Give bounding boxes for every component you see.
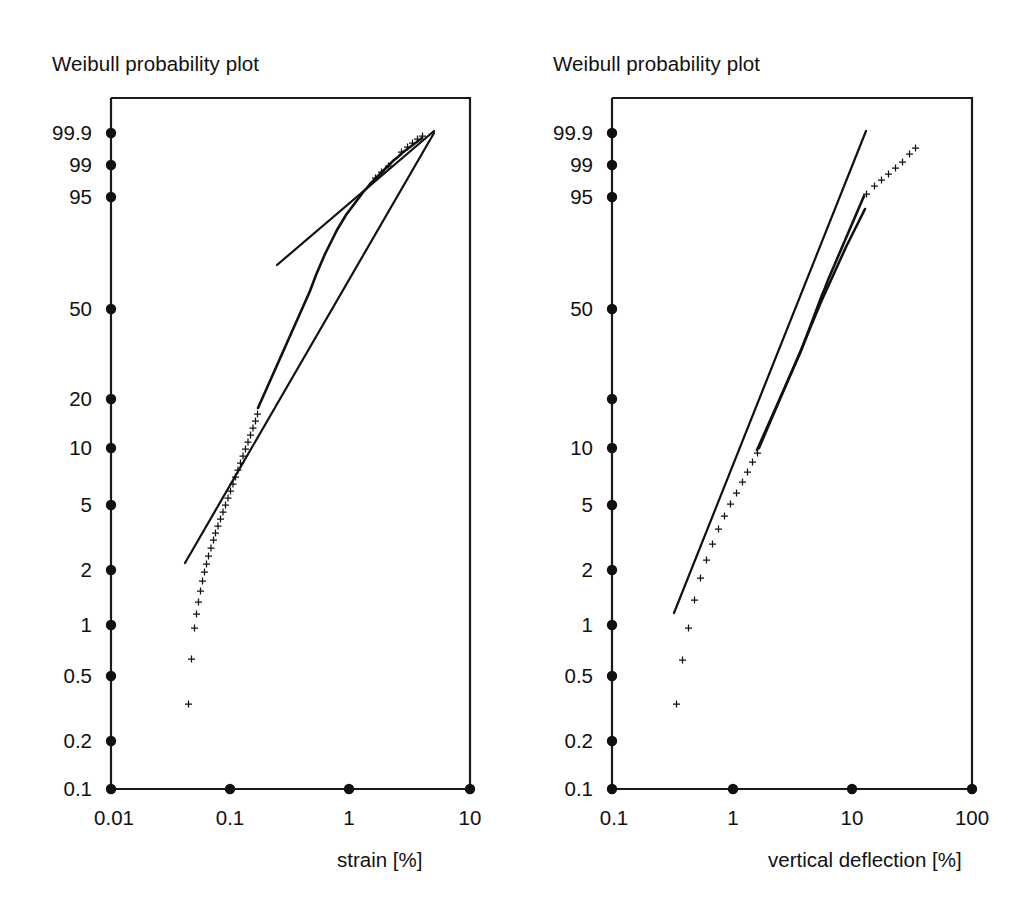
fit-lines-left	[185, 131, 434, 563]
weibull-plot-right: Weibull probability plot 99.9 99 95 50 1…	[501, 0, 1009, 904]
fit-lines-right	[674, 131, 866, 613]
data-trace-dense-right-2	[759, 209, 865, 448]
plot-frame	[612, 98, 972, 789]
data-points-right	[673, 450, 761, 708]
plot-frame	[111, 98, 470, 789]
data-points-upper-right	[863, 145, 919, 198]
data-points-left	[185, 411, 261, 708]
data-trace-dense-left	[258, 138, 422, 408]
plot-canvas-left	[0, 0, 505, 904]
data-trace-dense-right	[757, 196, 864, 450]
plot-canvas-right	[501, 0, 1009, 904]
weibull-plot-left: Weibull probability plot 99.9 99 95 50 2…	[0, 0, 505, 904]
figure-root: Weibull probability plot 99.9 99 95 50 2…	[0, 0, 1009, 904]
